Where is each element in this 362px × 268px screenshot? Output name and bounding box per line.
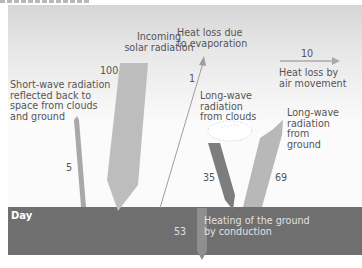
evaporation-arrow-line [160,63,203,208]
conduction-value: 53 [174,226,186,237]
longwave-clouds-value: 35 [203,173,215,183]
evaporation-label: Heat loss due to evaporation [177,28,247,49]
short-wave-reflected-label: Short-wave radiation reflected back to s… [10,80,110,122]
longwave-ground-label: Long-wave radiation from ground [287,108,339,150]
short-wave-reflected-arrow [74,116,86,207]
evaporation-value: 1 [189,74,195,84]
air-movement-value: 10 [301,49,313,59]
short-wave-reflected-value: 5 [66,163,72,173]
day-label: Day [11,210,32,221]
air-movement-label: Heat loss by air movement [279,68,346,89]
incoming-solar-value: 100 [100,66,118,76]
conduction-label: Heating of the ground by conduction [204,216,310,237]
evaporation-arrowhead [199,56,206,66]
longwave-ground-value: 69 [275,173,287,183]
longwave-clouds-label: Long-wave radiation from clouds [200,91,256,123]
incoming-solar-arrow [107,63,148,211]
air-movement-arrowhead [332,57,340,65]
